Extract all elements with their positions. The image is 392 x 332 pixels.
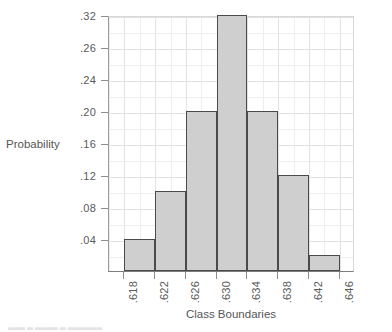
x-axis-tick bbox=[308, 272, 309, 279]
y-axis-tick bbox=[101, 16, 108, 17]
histogram-bar bbox=[217, 15, 248, 271]
x-axis-tick-label: .622 bbox=[159, 281, 170, 303]
x-axis-tick-label: .618 bbox=[128, 281, 139, 303]
y-axis-tick-label: .12 bbox=[56, 171, 96, 182]
histogram-bar bbox=[278, 175, 309, 271]
x-axis-tick bbox=[123, 272, 124, 279]
y-axis-tick bbox=[101, 176, 108, 177]
histogram-figure: Probability .04.08.12.16.20.24.26.32 .61… bbox=[0, 0, 392, 332]
x-axis-tick-label: .642 bbox=[313, 281, 324, 303]
x-axis-tick bbox=[246, 272, 247, 279]
histogram-bar bbox=[124, 239, 155, 271]
y-axis-tick-label: .20 bbox=[56, 107, 96, 118]
x-axis-tick bbox=[185, 272, 186, 279]
x-axis-title: Class Boundaries bbox=[108, 308, 354, 320]
x-axis-tick bbox=[339, 272, 340, 279]
x-axis-tick bbox=[277, 272, 278, 279]
x-axis-tick-label: .634 bbox=[251, 281, 262, 303]
x-axis-tick bbox=[216, 272, 217, 279]
plot-area bbox=[108, 16, 354, 272]
histogram-bar bbox=[186, 111, 217, 271]
x-axis-tick-label: .626 bbox=[190, 281, 201, 303]
histogram-bars bbox=[109, 17, 353, 271]
x-axis-tick-label: .630 bbox=[221, 281, 232, 303]
y-axis-tick bbox=[101, 208, 108, 209]
y-axis-tick bbox=[101, 48, 108, 49]
x-axis-tick bbox=[154, 272, 155, 279]
y-axis-tick-label: .08 bbox=[56, 203, 96, 214]
histogram-bar bbox=[247, 111, 278, 271]
y-axis-tick-label: .32 bbox=[56, 11, 96, 22]
x-axis-tick-label: .646 bbox=[344, 281, 355, 303]
y-axis-tick-label: .04 bbox=[56, 235, 96, 246]
y-axis-tick-label: .24 bbox=[56, 75, 96, 86]
y-axis-tick bbox=[101, 112, 108, 113]
y-axis-tick bbox=[101, 240, 108, 241]
y-axis-tick bbox=[101, 144, 108, 145]
y-axis-title: Probability bbox=[6, 138, 60, 150]
y-axis-tick-label: .16 bbox=[56, 139, 96, 150]
histogram-bar bbox=[309, 255, 340, 271]
clipped-caption-remnant: ▄▄▄ ▄ ▄▄▄▄ ▄ ▄▄▄▄▄▄ bbox=[8, 324, 128, 330]
x-axis-tick-label: .638 bbox=[282, 281, 293, 303]
y-axis-tick bbox=[101, 80, 108, 81]
histogram-bar bbox=[155, 191, 186, 271]
y-axis-tick-label: .26 bbox=[56, 43, 96, 54]
